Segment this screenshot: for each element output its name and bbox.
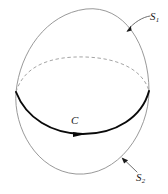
curve-direction-arrowhead (73, 132, 84, 137)
label-s2-letter: S (136, 171, 142, 183)
label-s1-letter: S (150, 10, 156, 22)
label-s1-subscript: 1 (156, 16, 159, 23)
boundary-curve-c (16, 91, 149, 134)
surface-boundary-diagram: S1 S2 C (0, 0, 168, 194)
diagram-canvas (0, 0, 168, 194)
lower-surface-outline (16, 91, 149, 174)
upper-surface-outline (16, 9, 149, 92)
label-curve-c: C (71, 115, 78, 126)
label-s2: S2 (136, 172, 145, 183)
label-s2-subscript: 2 (142, 177, 145, 184)
label-s1: S1 (150, 11, 159, 22)
hidden-rim-dashed-arc (16, 57, 149, 92)
